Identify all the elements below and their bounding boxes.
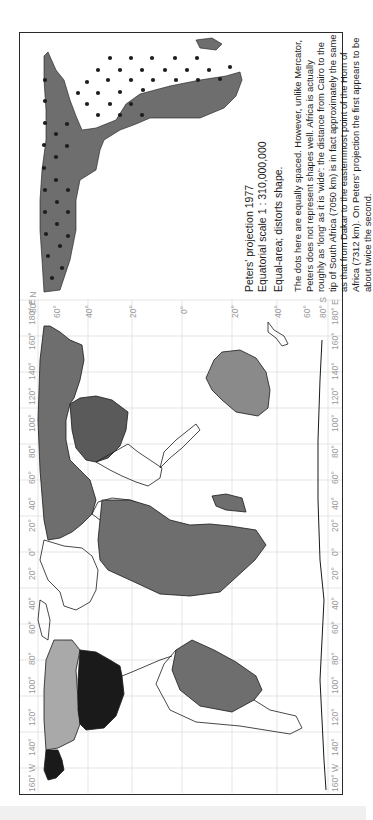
lon-label: 20° — [27, 567, 37, 580]
page-margin — [0, 806, 366, 820]
madagascar-region — [212, 494, 246, 512]
lat-label: 60° — [302, 305, 312, 318]
equatorial-scale: Equatorial scale 1 : 310,000,000 — [256, 141, 269, 292]
canada-region — [44, 640, 80, 750]
lon-label: 0° — [330, 548, 340, 556]
lon-label: 60° — [330, 621, 340, 634]
projection-property: Equal-area; distorts shape. — [272, 167, 284, 293]
lat-label: 80° S — [318, 297, 328, 318]
alaska-region — [44, 750, 64, 780]
lon-label: 60° — [27, 471, 37, 484]
lon-label: 140° — [27, 362, 37, 380]
lon-label: 20° — [330, 519, 340, 532]
lon-label: 80° — [330, 445, 340, 458]
lon-label: 120° — [27, 708, 37, 726]
lon-label: 60° — [330, 471, 340, 484]
lat-label: 0° — [179, 306, 189, 314]
lat-label: 80° N — [28, 292, 38, 313]
lon-label: 40° — [330, 597, 340, 610]
new-zealand-outline — [268, 322, 288, 346]
antarctica-outline — [318, 340, 326, 790]
lat-label: 20° — [230, 305, 240, 318]
greenland-outline — [38, 600, 50, 640]
projection-name: Peters' projection 1977 — [243, 141, 256, 292]
europe-outline — [40, 540, 98, 610]
lon-label: 40° — [27, 597, 37, 610]
lon-label: 100° — [27, 414, 37, 432]
lon-label: 160° — [330, 332, 340, 350]
lon-label: 120° — [330, 708, 340, 726]
lon-label: 160° W — [330, 764, 340, 792]
lon-label: 80° — [330, 652, 340, 665]
projection-title: Peters' projection 1977 Equatorial scale… — [243, 141, 269, 292]
lon-label: 80° — [27, 652, 37, 665]
africa-inset — [40, 38, 242, 292]
lon-label: 60° — [27, 621, 37, 634]
lon-label: 20° — [27, 519, 37, 532]
lon-label: 120° — [27, 387, 37, 405]
lon-label: 20° — [330, 567, 340, 580]
lon-label: 100° — [330, 676, 340, 694]
central-america-outline — [122, 656, 172, 676]
lat-label: 40° — [84, 305, 94, 318]
lon-label: 180° E — [330, 299, 340, 325]
madagascar-inset — [196, 38, 222, 50]
africa-inset-shape — [40, 52, 242, 292]
lon-label: 140° — [27, 738, 37, 756]
lat-label: 60° — [52, 305, 62, 318]
lon-label: 120° — [330, 387, 340, 405]
lon-label: 40° — [330, 497, 340, 510]
lat-label: 20° — [128, 305, 138, 318]
lat-label: 40° — [273, 305, 283, 318]
australia-region — [206, 350, 270, 416]
lon-label: 100° — [27, 676, 37, 694]
lon-label: 160° W — [27, 764, 37, 792]
usa-region — [78, 650, 124, 730]
lon-label: 140° — [330, 738, 340, 756]
lon-label: 40° — [27, 497, 37, 510]
lon-label: 160° — [27, 332, 37, 350]
lon-label: 80° — [27, 445, 37, 458]
china-region — [70, 396, 128, 462]
caption-body: The dots here are equally spaced. Howeve… — [292, 30, 373, 292]
indonesia-outline — [160, 424, 200, 468]
south-america-region — [172, 640, 262, 712]
lon-label: 140° — [330, 362, 340, 380]
lon-label: 0° — [27, 548, 37, 556]
lon-label: 100° — [330, 414, 340, 432]
